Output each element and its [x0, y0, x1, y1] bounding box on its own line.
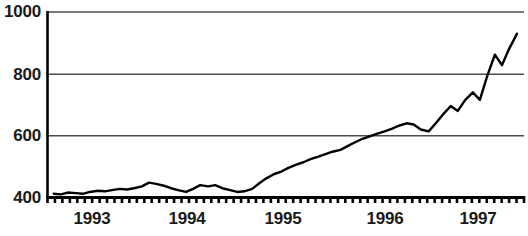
y-tick-label-800: 800: [0, 65, 41, 85]
x-tick-label-1996: 1996: [366, 209, 403, 229]
x-tick-label-1994: 1994: [168, 209, 205, 229]
x-tick-label-1997: 1997: [459, 209, 496, 229]
data-series-line: [54, 34, 517, 195]
x-tick-label-1995: 1995: [264, 209, 301, 229]
y-tick-label-600: 600: [0, 126, 41, 146]
gridlines: [47, 12, 524, 136]
chart-container: 1000 800 600 400 1993 1994 1995 1996 199…: [0, 0, 528, 236]
line-chart: [0, 0, 528, 236]
y-tick-label-1000: 1000: [0, 2, 41, 22]
x-tick-label-1993: 1993: [73, 209, 110, 229]
y-tick-label-400: 400: [0, 188, 41, 208]
